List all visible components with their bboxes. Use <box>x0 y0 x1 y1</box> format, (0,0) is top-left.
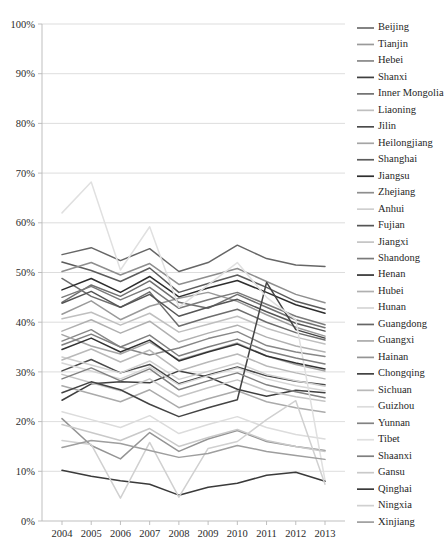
legend-item-label: Jiangxi <box>378 236 408 247</box>
legend-item-label: Anhui <box>378 203 404 214</box>
x-axis-tick-label: 2007 <box>139 528 160 539</box>
legend-item-label: Ningxia <box>378 499 412 510</box>
legend-item-label: Hunan <box>378 301 407 312</box>
legend-item-label: Shaanxi <box>378 450 412 461</box>
y-axis-tick-label: 0% <box>21 516 35 527</box>
legend-item-label: Liaoning <box>378 104 417 115</box>
legend-item-label: Yunnan <box>378 417 411 428</box>
x-axis-tick-label: 2011 <box>256 528 277 539</box>
x-axis-tick-label: 2005 <box>81 528 102 539</box>
legend-item-label: Heilongjiang <box>378 137 434 148</box>
series-line <box>62 262 325 309</box>
legend-item-label: Inner Mongolia <box>378 87 444 98</box>
y-axis-tick-label: 40% <box>16 317 36 328</box>
line-chart: 0%10%20%30%40%50%60%70%80%90%100% 200420… <box>0 0 446 543</box>
x-axis-tick-label: 2009 <box>198 528 219 539</box>
y-axis-tick-label: 30% <box>16 367 36 378</box>
legend-item-label: Jiangsu <box>378 170 410 181</box>
legend-item-label: Tibet <box>378 433 400 444</box>
legend-item-label: Guangdong <box>378 318 428 329</box>
y-axis-ticks: 0%10%20%30%40%50%60%70%80%90%100% <box>11 19 43 527</box>
y-axis-tick-label: 50% <box>16 267 36 278</box>
y-axis-tick-label: 70% <box>16 168 36 179</box>
legend-item-label: Sichuan <box>378 384 413 395</box>
y-axis-tick-label: 90% <box>16 68 36 79</box>
y-axis-tick-label: 20% <box>16 416 36 427</box>
legend-item-label: Hainan <box>378 351 409 362</box>
legend-item-label: Fujian <box>378 219 406 230</box>
legend-item-label: Shanxi <box>378 71 407 82</box>
x-axis-tick-label: 2004 <box>52 528 74 539</box>
legend-item-label: Qinghai <box>378 483 412 494</box>
x-axis-tick-label: 2012 <box>285 528 306 539</box>
y-axis-tick-label: 80% <box>16 118 36 129</box>
data-series <box>62 182 325 498</box>
legend-item-label: Shanghai <box>378 153 417 164</box>
legend-item-label: Shandong <box>378 252 421 263</box>
legend-item-label: Zhejiang <box>378 186 416 197</box>
x-axis-tick-label: 2008 <box>168 528 189 539</box>
chart-canvas: 0%10%20%30%40%50%60%70%80%90%100% 200420… <box>0 0 446 543</box>
legend-item-label: Gansu <box>378 466 406 477</box>
legend-item-label: Hebei <box>378 54 403 65</box>
legend-item-label: Tianjin <box>378 38 409 49</box>
legend-item-label: Guangxi <box>378 334 414 345</box>
x-axis-ticks: 2004200520062007200820092010201120122013 <box>52 521 336 539</box>
y-axis-tick-label: 100% <box>11 19 36 30</box>
series-line <box>62 419 325 459</box>
y-axis-tick-label: 60% <box>16 217 36 228</box>
legend-item-label: Henan <box>378 268 406 279</box>
legend: BeijingTianjinHebeiShanxiInner MongoliaL… <box>357 21 444 526</box>
legend-item-label: Guizhou <box>378 400 415 411</box>
legend-item-label: Beijing <box>378 21 410 32</box>
legend-item-label: Xinjiang <box>378 516 415 527</box>
x-axis-tick-label: 2013 <box>315 528 336 539</box>
x-axis-tick-label: 2006 <box>110 528 131 539</box>
y-axis-tick-label: 10% <box>16 466 36 477</box>
legend-item-label: Jilin <box>378 120 397 131</box>
x-axis-tick-label: 2010 <box>227 528 248 539</box>
legend-item-label: Chongqing <box>378 367 425 378</box>
legend-item-label: Hubei <box>378 285 404 296</box>
gridlines <box>42 24 345 471</box>
